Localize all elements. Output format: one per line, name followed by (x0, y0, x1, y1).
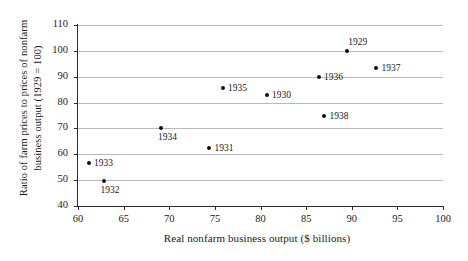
y-axis-title-line1: Ratio of farm prices to prices of nonfar… (17, 19, 31, 195)
data-point-label-1937: 1937 (381, 63, 400, 73)
data-point-1933 (87, 161, 91, 165)
y-axis-title-line2: business output (1929 = 100) (31, 19, 45, 195)
y-tick-60: 60 (74, 154, 78, 155)
x-tick-label-65: 65 (118, 213, 129, 224)
y-tick-70: 70 (74, 128, 78, 129)
y-tick-110: 110 (74, 25, 78, 26)
x-tick-100 (443, 206, 444, 210)
x-tick-label-75: 75 (210, 213, 221, 224)
y-tick-label-80: 80 (58, 96, 69, 107)
x-tick-60 (78, 206, 79, 210)
gridline-y-100 (78, 51, 443, 52)
gridline-y-110 (78, 25, 443, 26)
y-tick-50: 50 (74, 180, 78, 181)
data-point-label-1938: 1938 (329, 111, 348, 121)
y-axis-title: Ratio of farm prices to prices of nonfar… (0, 0, 62, 215)
x-tick-label-60: 60 (73, 213, 84, 224)
data-point-label-1934: 1934 (158, 132, 177, 142)
gridline-y-80 (78, 103, 443, 104)
x-tick-95 (397, 206, 398, 210)
data-point-label-1933: 1933 (94, 158, 113, 168)
x-axis-title: Real nonfarm business output ($ billions… (62, 232, 452, 244)
data-point-label-1929: 1929 (348, 37, 367, 47)
data-point-1936 (317, 75, 321, 79)
gridline-y-60 (78, 154, 443, 155)
data-point-1929 (345, 49, 349, 53)
data-point-1934 (159, 126, 163, 130)
data-point-1932 (102, 179, 106, 183)
y-tick-100: 100 (74, 51, 78, 52)
y-tick-label-50: 50 (58, 173, 69, 184)
data-point-1930 (265, 93, 269, 97)
gridline-y-70 (78, 128, 443, 129)
x-tick-label-70: 70 (164, 213, 175, 224)
x-tick-label-85: 85 (301, 213, 312, 224)
gridline-y-90 (78, 77, 443, 78)
gridline-y-50 (78, 180, 443, 181)
x-tick-65 (124, 206, 125, 210)
data-point-1935 (221, 86, 225, 90)
x-tick-80 (261, 206, 262, 210)
x-tick-75 (215, 206, 216, 210)
scatter-chart-figure: Ratio of farm prices to prices of nonfar… (0, 0, 468, 261)
data-point-label-1935: 1935 (228, 83, 247, 93)
y-tick-90: 90 (74, 77, 78, 78)
x-tick-70 (169, 206, 170, 210)
data-point-label-1932: 1932 (101, 185, 120, 195)
plot-area: 405060708090100110 6065707580859095100 1… (78, 25, 443, 206)
y-tick-label-100: 100 (52, 44, 68, 55)
y-tick-label-90: 90 (58, 70, 69, 81)
data-point-1938 (322, 114, 326, 118)
x-tick-label-90: 90 (347, 213, 358, 224)
data-point-1937 (374, 66, 378, 70)
y-tick-label-110: 110 (53, 18, 68, 29)
data-point-label-1930: 1930 (272, 90, 291, 100)
y-tick-label-60: 60 (58, 147, 69, 158)
x-tick-90 (352, 206, 353, 210)
data-point-label-1931: 1931 (214, 143, 233, 153)
y-tick-label-40: 40 (58, 199, 69, 210)
x-tick-85 (306, 206, 307, 210)
y-tick-80: 80 (74, 103, 78, 104)
x-tick-label-100: 100 (435, 213, 451, 224)
data-point-label-1936: 1936 (324, 72, 343, 82)
y-tick-label-70: 70 (58, 121, 69, 132)
x-tick-label-95: 95 (392, 213, 403, 224)
x-tick-label-80: 80 (255, 213, 266, 224)
data-point-1931 (207, 146, 211, 150)
